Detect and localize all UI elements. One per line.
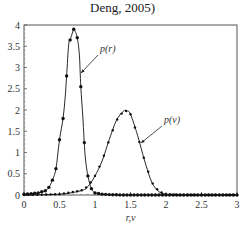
data-marker <box>136 193 139 196</box>
data-marker <box>169 193 171 195</box>
data-marker <box>58 193 60 195</box>
data-marker <box>231 194 233 196</box>
data-marker <box>23 194 25 196</box>
data-marker <box>107 141 109 143</box>
data-marker <box>125 110 127 112</box>
annotation-pr-label: p(r) <box>99 43 116 55</box>
data-marker <box>214 194 216 196</box>
data-marker <box>129 113 131 115</box>
data-marker <box>160 191 162 193</box>
data-marker <box>47 186 50 189</box>
data-marker <box>147 193 150 196</box>
y-tick-label: 4 <box>15 20 20 31</box>
data-marker <box>79 85 82 88</box>
data-marker <box>72 191 74 193</box>
data-marker <box>67 192 69 194</box>
series-line-1 <box>24 110 237 195</box>
data-marker <box>32 194 34 196</box>
data-marker <box>85 186 87 188</box>
data-marker <box>143 157 145 159</box>
data-marker <box>134 126 136 128</box>
data-marker <box>218 194 220 196</box>
data-marker <box>112 129 114 131</box>
x-tick-label: 0.5 <box>53 199 66 210</box>
data-marker <box>72 28 75 31</box>
annotation-pv-arrow <box>141 126 162 143</box>
data-marker <box>150 193 153 196</box>
data-marker <box>27 194 29 196</box>
y-tick-label: 0 <box>15 190 20 201</box>
data-marker <box>61 117 64 120</box>
data-marker <box>205 194 207 196</box>
data-marker <box>125 193 128 196</box>
data-marker <box>86 174 89 177</box>
data-marker <box>157 193 160 196</box>
data-marker <box>187 194 189 196</box>
x-tick-label: 2 <box>164 199 169 210</box>
data-marker <box>156 188 158 190</box>
y-tick-label: 2 <box>15 105 20 116</box>
data-marker <box>104 193 107 196</box>
data-marker <box>116 118 118 120</box>
data-marker <box>49 193 51 195</box>
data-marker <box>76 36 79 39</box>
data-marker <box>41 193 43 195</box>
data-marker <box>40 190 43 193</box>
data-marker <box>209 194 211 196</box>
data-marker <box>98 165 100 167</box>
data-marker <box>174 193 176 195</box>
data-marker <box>143 193 146 196</box>
data-marker <box>68 38 71 41</box>
y-tick-label: 3 <box>15 62 20 73</box>
data-marker <box>54 193 56 195</box>
chart-plot: 00.511.522.533.5400.511.522.53r,vp(r)p(v… <box>0 0 245 225</box>
data-marker <box>36 193 38 195</box>
data-marker <box>89 181 91 183</box>
data-marker <box>63 192 65 194</box>
data-marker <box>100 192 103 195</box>
data-marker <box>129 193 132 196</box>
data-marker <box>108 193 111 196</box>
data-marker <box>154 193 157 196</box>
x-tick-label: 2.5 <box>195 199 208 210</box>
data-marker <box>120 112 122 114</box>
data-marker <box>147 170 149 172</box>
y-tick-label: 0.5 <box>8 168 21 179</box>
data-marker <box>103 154 105 156</box>
data-marker <box>196 194 198 196</box>
data-marker <box>51 178 54 181</box>
data-marker <box>200 194 202 196</box>
annotation-pv-label: p(v) <box>163 114 181 126</box>
data-marker <box>122 193 125 196</box>
data-marker <box>97 192 100 195</box>
x-tick-label: 1 <box>93 199 98 210</box>
data-marker <box>236 194 238 196</box>
data-marker <box>45 193 47 195</box>
data-marker <box>178 194 180 196</box>
data-marker <box>191 194 193 196</box>
y-tick-label: 3.5 <box>8 41 21 52</box>
data-marker <box>115 193 118 196</box>
data-marker <box>138 141 140 143</box>
data-marker <box>80 189 82 191</box>
y-tick-label: 2.5 <box>8 83 21 94</box>
data-marker <box>54 167 57 170</box>
data-marker <box>94 175 96 177</box>
data-marker <box>76 190 78 192</box>
data-marker <box>58 138 61 141</box>
annotation-pr-arrow <box>81 55 98 73</box>
x-tick-label: 1.5 <box>124 199 137 210</box>
data-marker <box>183 194 185 196</box>
data-marker <box>165 193 167 195</box>
y-tick-label: 1.5 <box>8 126 21 137</box>
data-marker <box>93 191 96 194</box>
x-axis-label: r,v <box>126 212 136 223</box>
data-marker <box>151 182 153 184</box>
x-tick-label: 0 <box>22 199 27 210</box>
data-marker <box>139 193 142 196</box>
data-marker <box>90 187 93 190</box>
data-marker <box>118 193 121 196</box>
data-marker <box>222 194 224 196</box>
x-tick-label: 3 <box>235 199 240 210</box>
data-marker <box>111 193 114 196</box>
